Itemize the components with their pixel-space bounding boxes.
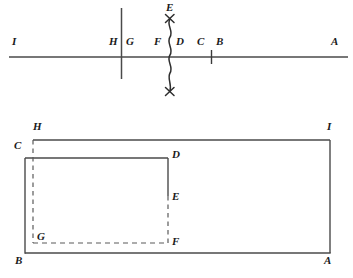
top-diagram [9, 8, 348, 96]
label-top-d: D [176, 36, 184, 47]
label-bottom-h: H [33, 121, 42, 132]
label-top-f: F [154, 36, 161, 47]
label-bottom-g: G [37, 231, 45, 242]
label-bottom-i: I [327, 121, 331, 132]
label-bottom-f: F [172, 236, 179, 247]
label-top-h: H [109, 36, 118, 47]
geometry-figure: I H G F D C B A E H I C D E G F B A [0, 0, 353, 278]
label-bottom-e: E [172, 191, 179, 202]
label-bottom-a: A [324, 255, 331, 266]
label-top-b: B [216, 36, 223, 47]
label-top-a: A [331, 36, 338, 47]
label-top-i: I [12, 36, 16, 47]
label-bottom-c: C [14, 140, 21, 151]
label-bottom-d: D [172, 149, 180, 160]
label-top-c: C [197, 36, 204, 47]
label-top-e: E [166, 2, 173, 13]
wavy-cut-line-fd [169, 19, 171, 91]
label-top-g: G [126, 36, 134, 47]
label-bottom-b: B [15, 255, 22, 266]
